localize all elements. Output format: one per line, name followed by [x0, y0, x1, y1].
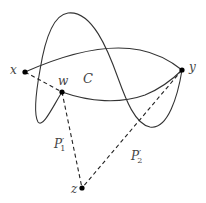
label-y: y: [189, 61, 196, 73]
point-w: [59, 89, 64, 94]
xw-dashed-segment: [25, 72, 62, 92]
p2-subscript: 2: [137, 156, 142, 165]
point-z: [79, 185, 84, 190]
wavy-curve: [36, 13, 182, 127]
lower-arc-curve: [62, 70, 182, 101]
p1-subscript: 1: [60, 144, 65, 153]
diagram: x w y z C P′1 P′2: [0, 0, 206, 203]
label-w: w: [58, 75, 68, 87]
p2-dashed-path: [82, 70, 182, 188]
label-p1-prime: P′1: [54, 137, 65, 153]
label-region-c: C: [83, 72, 93, 85]
diagram-svg: [0, 0, 206, 203]
label-z: z: [71, 183, 77, 195]
label-p2-prime: P′2: [131, 149, 142, 165]
upper-arc-curve: [25, 48, 182, 72]
point-y: [179, 67, 184, 72]
label-x: x: [10, 64, 17, 76]
point-x: [22, 69, 27, 74]
